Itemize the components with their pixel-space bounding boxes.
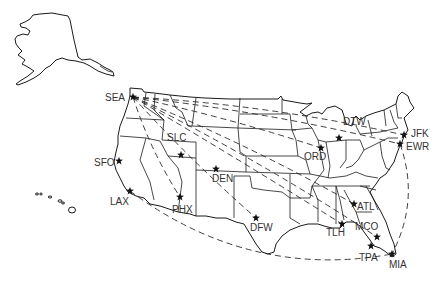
alaska-outline	[15, 13, 114, 85]
airport-label-atl: ATL	[357, 201, 375, 212]
airport-label-dfw: DFW	[250, 222, 273, 233]
airport-label-jfk: JFK	[411, 128, 429, 139]
airport-label-phx: PHX	[172, 204, 193, 215]
airport-label-ord: ORD	[304, 151, 326, 162]
airport-label-tlh: TLH	[326, 227, 345, 238]
airport-label-slc: SLC	[167, 132, 186, 143]
us-route-map: SEASLCSFOLAXPHXDENDFWORDDTWJFKEWRATLTLHM…	[0, 0, 442, 281]
airport-label-mco: MCO	[355, 221, 379, 232]
airport-label-mia: MIA	[389, 259, 407, 270]
airport-label-den: DEN	[212, 173, 233, 184]
airport-label-dtw: DTW	[343, 116, 366, 127]
airport-label-ewr: EWR	[406, 141, 429, 152]
airport-label-lax: LAX	[110, 196, 129, 207]
airport-label-sfo: SFO	[94, 157, 115, 168]
airport-label-tpa: TPA	[359, 252, 378, 263]
hawaii-islands	[36, 193, 76, 213]
airport-label-sea: SEA	[105, 92, 125, 103]
